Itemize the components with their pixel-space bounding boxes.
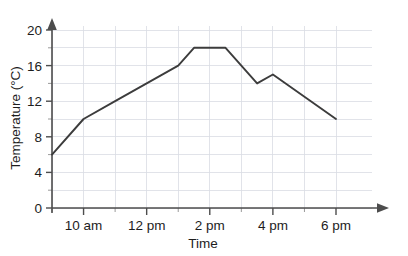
line-chart: 048121620 10 am12 pm2 pm4 pm6 pm Time Te… xyxy=(0,0,408,256)
x-tick-label: 10 am xyxy=(65,218,103,233)
horizontal-gridlines xyxy=(52,30,372,208)
x-axis-arrowhead xyxy=(377,203,389,213)
y-tick-label: 8 xyxy=(34,130,42,145)
y-axis-title: Temperature (°C) xyxy=(8,66,23,170)
x-axis-tick-labels: 10 am12 pm2 pm4 pm6 pm xyxy=(65,218,351,233)
vertical-gridlines xyxy=(52,26,336,208)
x-tick-label: 12 pm xyxy=(128,218,166,233)
x-tick-label: 6 pm xyxy=(321,218,351,233)
x-axis-title: Time xyxy=(188,236,218,251)
chart-canvas: 048121620 10 am12 pm2 pm4 pm6 pm Time Te… xyxy=(0,0,408,256)
y-tick-label: 4 xyxy=(34,165,42,180)
y-axis-tick-labels: 048121620 xyxy=(27,23,43,216)
y-tick-label: 0 xyxy=(34,201,42,216)
x-axis-ticks xyxy=(52,208,336,215)
y-tick-label: 20 xyxy=(27,23,42,38)
y-axis-ticks xyxy=(46,30,52,208)
x-tick-label: 4 pm xyxy=(258,218,288,233)
y-axis-arrowhead xyxy=(47,18,57,30)
y-tick-label: 16 xyxy=(27,59,42,74)
x-tick-label: 2 pm xyxy=(195,218,225,233)
y-tick-label: 12 xyxy=(27,94,42,109)
